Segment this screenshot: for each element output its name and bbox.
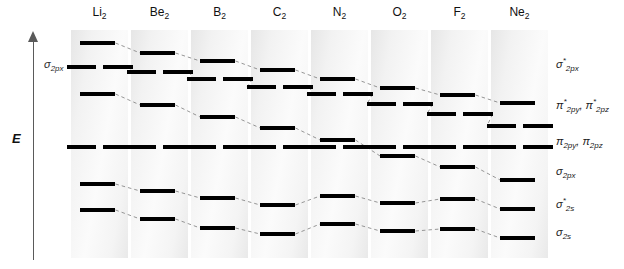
column-header-n2: N2 [311, 5, 368, 21]
energy-axis-line [33, 38, 34, 260]
orbital-label-pi2p: π2py, π2pz [556, 135, 603, 150]
energy-level-pi2p-c2 [247, 145, 276, 148]
energy-level-sigma2px-li2 [80, 92, 115, 95]
orbital-label-sigma2s: σ2s [556, 226, 571, 241]
energy-level-sigma2px-f2 [440, 165, 475, 168]
energy-level-pi2p-n2 [307, 145, 336, 148]
column-header-ne2: Ne2 [491, 5, 548, 21]
energy-level-sigmastar2s-n2 [320, 194, 355, 197]
energy-level-sigmastar2px-b2 [200, 59, 235, 62]
molecule-column-be2 [131, 30, 188, 258]
energy-axis-label: E [12, 131, 21, 146]
energy-level-sigma2s-be2 [140, 217, 175, 220]
energy-level-pistar2p-be2 [127, 70, 156, 73]
energy-level-pistar2p-n2 [343, 92, 373, 95]
energy-level-pi2p-b2 [187, 145, 216, 148]
energy-level-sigmastar2s-ne2 [500, 207, 535, 210]
mo-energy-diagram: E σ2px Li2Be2B2C2N2O2F2Ne2 σ*2pxπ*2py, π… [0, 0, 624, 269]
molecule-column-li2 [71, 30, 128, 258]
molecule-column-f2 [431, 30, 488, 258]
molecule-column-ne2 [491, 30, 548, 258]
energy-level-pistar2p-o2 [367, 102, 396, 105]
energy-level-pistar2p-b2 [223, 77, 253, 80]
molecule-column-c2 [251, 30, 308, 258]
energy-level-pistar2p-be2 [163, 70, 193, 73]
energy-level-sigma2s-n2 [320, 222, 355, 225]
energy-level-sigma2s-o2 [380, 229, 415, 232]
orbital-label-sigma2px-star: σ*2px [556, 56, 579, 73]
energy-level-pi2p-f2 [427, 145, 456, 148]
energy-level-pistar2p-c2 [283, 85, 313, 88]
energy-level-sigmastar2px-f2 [440, 93, 475, 96]
energy-level-sigmastar2s-b2 [200, 196, 235, 199]
energy-level-sigmastar2px-li2 [80, 41, 115, 44]
energy-level-pistar2p-o2 [403, 102, 433, 105]
energy-level-sigmastar2s-li2 [80, 182, 115, 185]
molecule-column-b2 [191, 30, 248, 258]
energy-level-pi2p-o2 [367, 145, 396, 148]
energy-level-sigmastar2s-c2 [260, 203, 295, 206]
energy-level-sigma2s-b2 [200, 226, 235, 229]
energy-level-sigma2px-be2 [140, 103, 175, 106]
energy-level-sigmastar2s-f2 [440, 197, 475, 200]
energy-level-sigma2s-li2 [80, 208, 115, 211]
orbital-label-pi2p-star: π*2py, π*2pz [556, 97, 609, 114]
energy-level-sigma2s-ne2 [500, 236, 535, 239]
column-header-c2: C2 [251, 5, 308, 21]
molecule-column-o2 [371, 30, 428, 258]
energy-level-pistar2p-n2 [307, 92, 336, 95]
energy-level-pistar2p-ne2 [487, 124, 516, 127]
energy-level-pistar2p-li2 [67, 65, 96, 68]
energy-level-pistar2p-f2 [427, 112, 456, 115]
energy-level-sigma2px-b2 [200, 115, 235, 118]
sigma-2px-axis-note: σ2px [44, 58, 64, 73]
column-header-b2: B2 [191, 5, 248, 21]
column-header-o2: O2 [371, 5, 428, 21]
energy-level-sigma2px-ne2 [500, 178, 535, 181]
energy-level-sigmastar2px-o2 [380, 86, 415, 89]
energy-level-sigmastar2s-be2 [140, 189, 175, 192]
energy-level-pi2p-ne2 [523, 145, 553, 148]
energy-level-pistar2p-c2 [247, 85, 276, 88]
energy-level-sigma2px-c2 [260, 126, 295, 129]
column-header-li2: Li2 [71, 5, 128, 21]
energy-level-pistar2p-f2 [463, 112, 493, 115]
energy-level-sigmastar2s-o2 [380, 201, 415, 204]
energy-level-pi2p-li2 [67, 145, 96, 148]
column-header-be2: Be2 [131, 5, 188, 21]
column-header-f2: F2 [431, 5, 488, 21]
energy-level-sigmastar2px-c2 [260, 68, 295, 71]
energy-level-sigmastar2px-ne2 [500, 101, 535, 104]
energy-level-sigma2px-o2 [380, 154, 415, 157]
energy-level-sigma2px-n2 [320, 138, 355, 141]
energy-level-pistar2p-ne2 [523, 124, 553, 127]
energy-level-sigmastar2px-be2 [140, 51, 175, 54]
energy-level-sigmastar2px-n2 [320, 77, 355, 80]
energy-level-pistar2p-li2 [103, 65, 133, 68]
energy-level-pi2p-ne2 [487, 145, 516, 148]
orbital-label-sigma2s-star: σ*2s [556, 196, 574, 213]
energy-level-sigma2s-f2 [440, 227, 475, 230]
energy-level-sigma2s-c2 [260, 232, 295, 235]
energy-level-pistar2p-b2 [187, 77, 216, 80]
orbital-label-sigma2px: σ2px [556, 165, 576, 180]
energy-level-pi2p-be2 [127, 145, 156, 148]
